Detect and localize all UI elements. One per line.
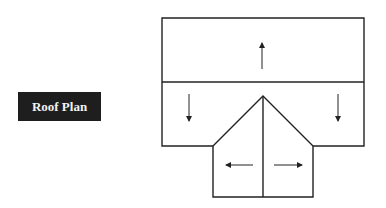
roof-plan-diagram	[0, 0, 386, 208]
